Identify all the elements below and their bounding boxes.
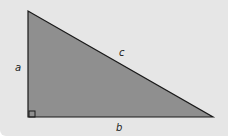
side-a-label: a	[15, 62, 21, 73]
side-c-label: c	[119, 47, 125, 58]
right-triangle-diagram: a b c	[0, 0, 228, 139]
side-b-label: b	[116, 122, 122, 133]
triangle-shape	[28, 11, 213, 117]
